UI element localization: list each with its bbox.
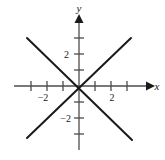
figure-background	[0, 0, 165, 160]
y-tick-label-minus2: −2	[60, 113, 71, 124]
y-tick-label-plus2: 2	[64, 49, 69, 60]
graph-canvas: −2 2 2 −2 x y	[0, 0, 165, 160]
x-tick-label-minus2: −2	[38, 92, 49, 103]
coordinate-plane-figure: −2 2 2 −2 x y	[0, 0, 165, 160]
y-axis-label: y	[76, 2, 82, 14]
x-tick-label-plus2: 2	[110, 92, 115, 103]
x-axis-label: x	[154, 80, 160, 92]
